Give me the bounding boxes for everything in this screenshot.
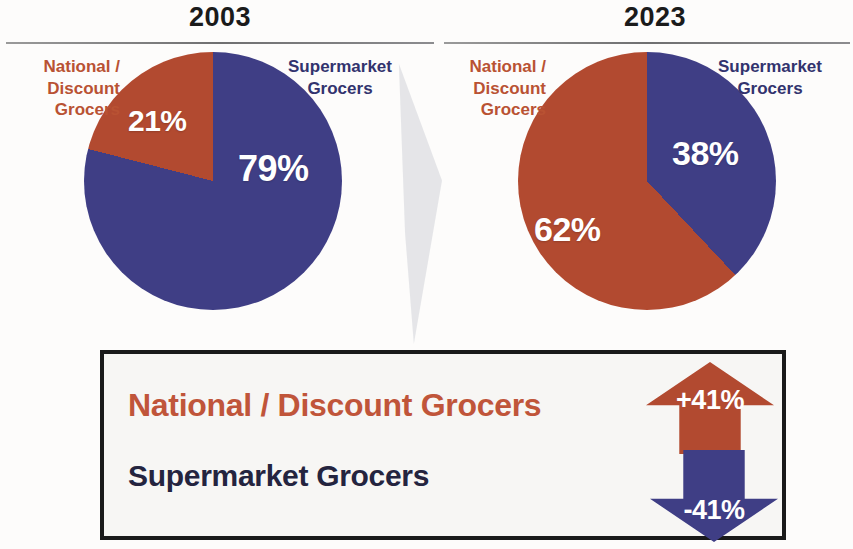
- pie-2003-national-label: National /DiscountGrocers: [4, 56, 120, 121]
- legend-national-label: National / Discount Grocers: [128, 387, 541, 424]
- pie-2023-supermarket-label: SupermarketGrocers: [690, 56, 850, 99]
- pie-2023-supermarket-value: 38%: [672, 134, 739, 173]
- divider-rule-right: [444, 42, 850, 44]
- legend-supermarket-change-value: -41%: [650, 495, 778, 526]
- pie-2003-supermarket-value: 79%: [238, 148, 309, 190]
- arrow-down-decrease: -41%: [650, 450, 778, 542]
- legend-national-change-value: +41%: [646, 385, 774, 416]
- pie-2003-national-value: 21%: [128, 104, 187, 138]
- pie-2023-national-label: National /DiscountGrocers: [434, 56, 546, 121]
- panel-title-2003: 2003: [135, 2, 305, 33]
- panel-title-2023: 2023: [570, 2, 740, 33]
- pie-2023-national-value: 62%: [534, 210, 601, 249]
- legend-supermarket-label: Supermarket Grocers: [128, 459, 429, 493]
- legend-summary-box: National / Discount Grocers Supermarket …: [100, 350, 786, 540]
- arrow-up-increase: +41%: [646, 362, 774, 454]
- divider-rule-left: [6, 42, 434, 44]
- pie-2003-supermarket-label: SupermarketGrocers: [256, 56, 424, 99]
